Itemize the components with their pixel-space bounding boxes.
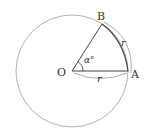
circle-sector-diagram: O A B α° r r [0,0,153,128]
label-o: O [57,66,66,79]
label-b: B [97,10,105,23]
angle-arc [78,62,83,71]
label-arc: r [121,37,127,48]
label-a: A [130,68,140,81]
label-angle: α° [84,55,95,65]
